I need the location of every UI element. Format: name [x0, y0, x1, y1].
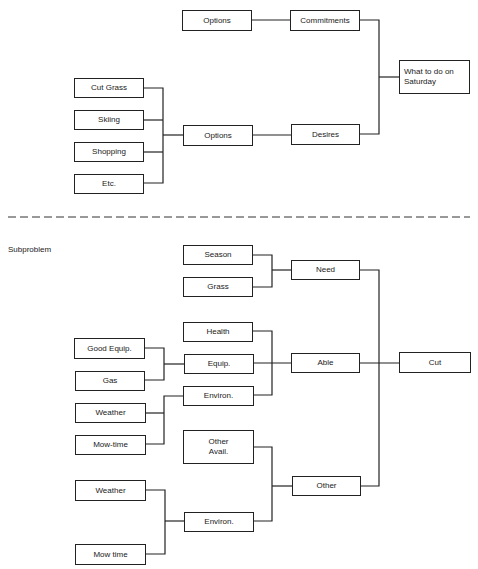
node-other: Other: [292, 476, 361, 496]
node-desires: Desires: [291, 124, 360, 145]
section-label-subproblem: Subproblem: [8, 245, 51, 254]
node-label: Grass: [207, 282, 228, 292]
node-label: Environ.: [204, 391, 233, 401]
node-able: Able: [291, 353, 360, 373]
node-goal-saturday: What to do onSaturday: [399, 60, 470, 94]
node-label: Weather: [95, 486, 125, 496]
node-label: Need: [316, 265, 335, 275]
node-label: Commitments: [300, 16, 349, 26]
node-label-line1: Other: [208, 437, 228, 447]
node-health: Health: [183, 322, 253, 342]
node-label: Cut Grass: [91, 83, 127, 93]
node-season: Season: [183, 245, 253, 265]
node-cut-grass: Cut Grass: [74, 78, 144, 98]
node-skiing: Skiing: [74, 110, 144, 130]
node-label: Other: [316, 481, 336, 491]
node-etc: Etc.: [74, 174, 144, 194]
node-gas: Gas: [75, 371, 145, 391]
node-cut: Cut: [399, 352, 471, 373]
node-label: Skiing: [98, 115, 120, 125]
node-weather-1: Weather: [75, 403, 146, 423]
node-options-top: Options: [182, 10, 252, 31]
node-grass: Grass: [183, 277, 253, 297]
node-label: Weather: [95, 408, 125, 418]
node-label: Season: [204, 250, 231, 260]
node-shopping: Shopping: [74, 142, 144, 162]
node-mow-time-2: Mow time: [75, 544, 146, 565]
node-label: Equip.: [208, 359, 231, 369]
node-label: Gas: [103, 376, 118, 386]
node-label-line2: Avail.: [208, 447, 228, 457]
node-label: Environ.: [204, 517, 233, 527]
node-label: Health: [206, 327, 229, 337]
node-label: Cut: [429, 358, 441, 368]
node-label: Able: [317, 358, 333, 368]
node-mow-time-1: Mow-time: [75, 435, 146, 455]
node-label: Etc.: [102, 179, 116, 189]
node-good-equip: Good Equip.: [74, 338, 145, 359]
node-label: Mow-time: [93, 440, 128, 450]
node-commitments: Commitments: [290, 10, 360, 31]
node-weather-2: Weather: [75, 480, 146, 501]
node-need: Need: [291, 260, 360, 280]
node-label-line2: Saturday: [404, 77, 454, 87]
node-label: Options: [204, 131, 232, 141]
node-other-avail: OtherAvail.: [183, 430, 254, 464]
node-environ-1: Environ.: [183, 386, 254, 406]
node-environ-2: Environ.: [184, 512, 254, 532]
node-label: Mow time: [93, 550, 127, 560]
node-label: Shopping: [92, 147, 126, 157]
node-label: Options: [203, 16, 231, 26]
node-label: Good Equip.: [87, 344, 131, 354]
node-equip: Equip.: [184, 354, 254, 374]
node-label: Desires: [312, 130, 339, 140]
node-label-line1: What to do on: [404, 67, 454, 77]
node-options-mid: Options: [183, 125, 253, 146]
